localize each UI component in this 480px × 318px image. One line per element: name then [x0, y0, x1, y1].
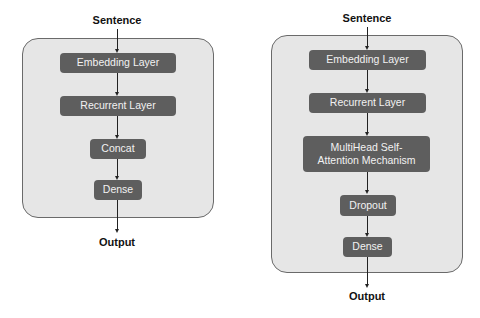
left-input-label: Sentence: [93, 14, 142, 26]
right-node-recurrent: Recurrent Layer: [309, 93, 426, 113]
arrow-head-icon: [365, 284, 369, 288]
right-node-dense: Dense: [343, 237, 392, 257]
left-node-concat: Concat: [90, 139, 146, 159]
arrow-line: [117, 73, 118, 93]
right-input-label: Sentence: [343, 12, 392, 24]
left-output-label: Output: [99, 236, 135, 248]
arrow-head-icon: [365, 190, 369, 194]
right-output-label: Output: [349, 290, 385, 302]
arrow-line: [117, 116, 118, 136]
arrow-line: [117, 29, 118, 50]
arrow-line: [367, 113, 368, 133]
arrow-line: [367, 70, 368, 90]
arrow-line: [367, 257, 368, 285]
arrow-head-icon: [115, 229, 119, 233]
arrow-line: [117, 159, 118, 177]
arrow-line: [367, 27, 368, 47]
arrow-line: [367, 172, 368, 191]
arrow-line: [367, 216, 368, 234]
left-node-dense: Dense: [94, 180, 142, 200]
arrow-line: [117, 200, 118, 230]
right-node-dropout: Dropout: [340, 195, 396, 216]
left-node-embedding: Embedding Layer: [60, 53, 176, 73]
right-node-multihead-attention: MultiHead Self-Attention Mechanism: [303, 136, 430, 172]
right-node-embedding: Embedding Layer: [309, 50, 426, 70]
left-node-recurrent: Recurrent Layer: [60, 96, 176, 116]
